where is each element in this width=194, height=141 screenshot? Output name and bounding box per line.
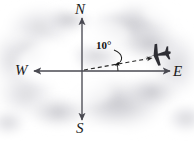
compass-label-west: W: [15, 63, 28, 78]
angle-leader-line: [114, 50, 122, 65]
airplane-icon: [141, 42, 173, 68]
compass-label-south: S: [76, 121, 84, 136]
compass-diagram: [0, 0, 194, 141]
angle-arc: [117, 65, 118, 71]
figure-canvas: N S W E 10°: [0, 0, 194, 141]
compass-label-east: E: [173, 64, 182, 79]
compass-label-north: N: [75, 2, 85, 17]
angle-label: 10°: [96, 39, 111, 51]
